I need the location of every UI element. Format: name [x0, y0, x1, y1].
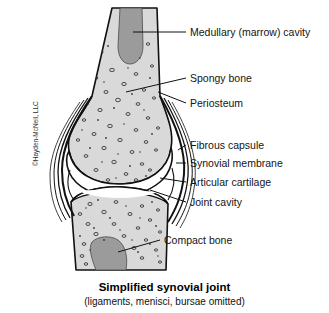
caption-subtitle: (ligaments, menisci, bursae omitted) — [0, 295, 329, 309]
label-periosteum: Periosteum — [190, 97, 243, 109]
lower-bone — [71, 187, 168, 270]
label-joint-cavity: Joint cavity — [190, 196, 242, 208]
label-spongy-bone: Spongy bone — [190, 72, 252, 84]
copyright-credit: ©Hayden-McNeil, LLC — [32, 101, 39, 166]
label-synovial-membrane: Synovial membrane — [190, 157, 283, 169]
label-articular-cartilage: Articular cartilage — [190, 176, 271, 188]
medullary-cavity-region — [118, 8, 143, 64]
label-fibrous-capsule: Fibrous capsule — [190, 139, 264, 151]
leader-articular-cartilage — [160, 178, 186, 182]
label-compact-bone: Compact bone — [164, 234, 232, 246]
synovial-joint-figure: Medullary (marrow) cavity Spongy bone Pe… — [0, 0, 329, 313]
caption-title: Simplified synovial joint — [0, 280, 329, 295]
label-medullary-cavity: Medullary (marrow) cavity — [190, 26, 310, 38]
figure-caption: Simplified synovial joint (ligaments, me… — [0, 280, 329, 309]
